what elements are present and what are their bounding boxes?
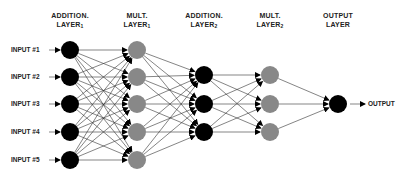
node-layer1-1 <box>61 41 79 59</box>
connection-arrow <box>145 53 194 71</box>
node-layer5-1 <box>329 95 347 113</box>
connection-arrow <box>77 56 129 98</box>
node-layer1-5 <box>61 151 79 169</box>
node-layer2-2 <box>128 68 146 86</box>
node-layer2-4 <box>128 123 146 141</box>
node-layer3-2 <box>195 95 213 113</box>
node-layer2-3 <box>128 95 146 113</box>
connection-arrow <box>76 85 131 153</box>
node-layer4-3 <box>261 123 279 141</box>
node-layer3-3 <box>195 123 213 141</box>
node-layer2-5 <box>128 151 146 169</box>
connection-arrow <box>77 83 129 126</box>
connection-arrow <box>75 59 132 153</box>
connection-arrow <box>278 79 329 101</box>
connection-arrow <box>278 108 328 129</box>
node-layer4-2 <box>261 95 279 113</box>
node-layer3-1 <box>195 66 213 84</box>
connection-arrow <box>145 136 194 157</box>
connection-arrow <box>77 110 129 154</box>
connection-arrow <box>144 110 196 154</box>
neural-network-diagram <box>0 0 404 176</box>
node-layer4-1 <box>261 66 279 84</box>
connection-arrow <box>212 79 261 100</box>
connection-arrow <box>143 83 198 153</box>
node-layer1-3 <box>61 95 79 113</box>
connection-arrow <box>77 110 129 154</box>
connection-arrow <box>76 58 131 125</box>
node-layer1-4 <box>61 123 79 141</box>
node-layer2-1 <box>128 41 146 59</box>
node-layer1-2 <box>61 68 79 86</box>
connection-arrow <box>211 81 263 126</box>
